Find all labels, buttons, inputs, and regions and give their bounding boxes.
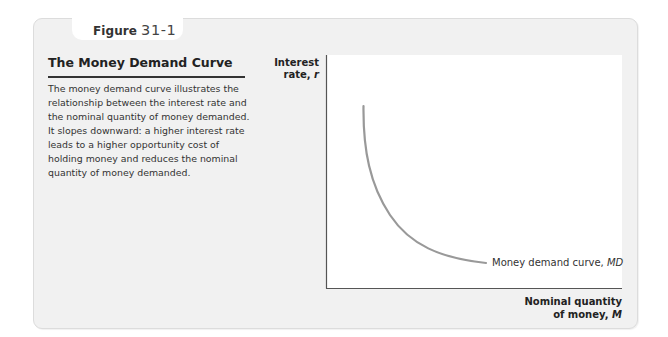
x-axis-label-line1: Nominal quantity bbox=[524, 296, 622, 309]
x-axis-variable: M bbox=[612, 309, 622, 320]
x-axis-label-line2: of money, M bbox=[524, 309, 622, 322]
curve-label-text: Money demand curve, bbox=[492, 257, 607, 268]
x-axis-label: Nominal quantity of money, M bbox=[524, 296, 622, 321]
y-axis-variable: r bbox=[314, 69, 319, 80]
y-axis-label-text: rate, bbox=[284, 69, 315, 80]
x-axis-label-text: of money, bbox=[553, 309, 612, 320]
curve-label: Money demand curve, MD bbox=[492, 257, 623, 268]
y-axis-label: Interest rate, r bbox=[274, 57, 319, 81]
money-demand-curve bbox=[363, 106, 486, 263]
curve-label-variable: MD bbox=[607, 257, 623, 268]
y-axis-label-line1: Interest bbox=[274, 57, 319, 69]
chart-svg bbox=[0, 0, 668, 337]
y-axis-label-line2: rate, r bbox=[274, 69, 319, 81]
